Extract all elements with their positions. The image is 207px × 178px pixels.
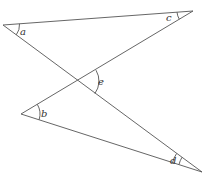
segment-a-c: [3, 11, 193, 25]
angle-label-d: d: [170, 155, 176, 166]
geometry-diagram: a c b e d: [0, 0, 207, 178]
diagram-svg: a c b e d: [0, 0, 207, 178]
segment-a-d: [3, 25, 202, 172]
angle-arc-b: [37, 104, 40, 120]
angle-label-a: a: [20, 26, 26, 37]
angle-arc-c: [177, 12, 179, 19]
segment-c-b: [21, 11, 193, 114]
angle-label-b: b: [41, 108, 47, 119]
angle-label-c: c: [166, 12, 172, 23]
angle-arc-d-inner: [179, 157, 182, 164]
angle-label-e: e: [98, 76, 104, 87]
